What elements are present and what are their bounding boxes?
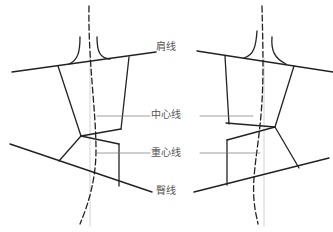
right-torso-side-left [225,56,229,124]
left-dashed-center-line [80,6,96,224]
left-torso-side-right [121,57,129,129]
left-hip-line [10,144,152,192]
right-neck-curve-left [244,31,257,58]
label-gravity-line: 重心线 [151,147,181,159]
right-hip-line [194,158,329,192]
label-shoulder-line: 肩线 [156,41,176,53]
left-waist-lower [81,136,119,144]
left-lower-left-side [59,136,81,161]
left-figure [10,6,156,226]
right-neck-curve-right [272,37,286,64]
left-waist-upper [81,129,121,136]
right-shoulder-line [197,51,333,72]
left-neck-curve-left [69,37,80,64]
left-neck-curve-right [97,37,110,59]
right-waist-upper [226,123,275,127]
right-lower-right-side [275,127,299,168]
right-waist-lower [227,127,275,140]
left-torso-side-left [58,66,81,136]
label-hip-line: 臀线 [156,185,176,197]
label-center-line: 中心线 [151,109,181,121]
right-dashed-center-line [254,6,263,224]
left-shoulder-line [12,52,156,72]
right-torso-side-right [275,66,294,127]
right-figure [194,6,333,226]
